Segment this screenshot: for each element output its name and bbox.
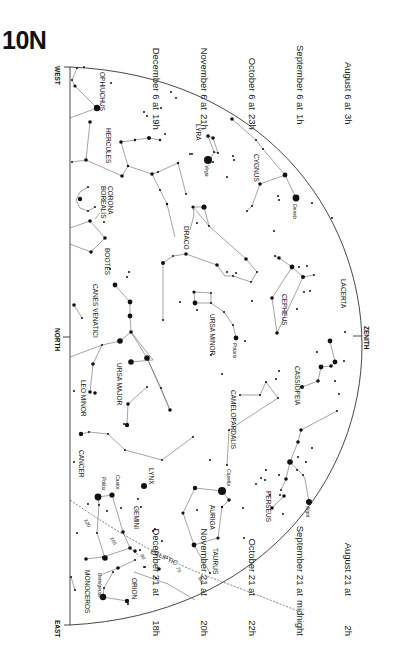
zenith-label: ZENITH [363, 326, 370, 350]
canes-venatici-lines [74, 305, 82, 318]
perseus-lines [290, 462, 309, 502]
label-cancer: CANCER [78, 450, 85, 478]
perseus-lines [281, 411, 337, 490]
ursa-major-lines [70, 341, 120, 357]
label-corona-borealis-1: CORONA [107, 186, 114, 215]
label-cepheus: CEPHEUS [281, 294, 288, 326]
label-cygnus: CYGNUS [253, 154, 260, 182]
label-ursa-minor: URSA MINOR [209, 314, 216, 355]
ursa-major-lines [127, 387, 147, 425]
ecliptic-degree: 75 [175, 566, 183, 574]
bootes-lines [70, 221, 105, 252]
label-camelopardalis: CAMELOPARDALIS [230, 390, 237, 450]
label-monoceros: MONOCEROS [84, 570, 91, 614]
ophiuchus-lines [70, 68, 97, 118]
label-leo-minor: LEO MINOR [80, 380, 87, 417]
bootes-lines [95, 213, 100, 219]
label-castor: Castor [115, 475, 121, 490]
label-hercules: HERCULES [105, 128, 112, 164]
label-gemini: GEMINI [133, 506, 140, 529]
label-algol: Algol [305, 505, 311, 518]
label-bootes: BOOTES [104, 248, 111, 276]
cygnus-lines [232, 119, 296, 198]
label-lynx: LYNX [148, 468, 155, 485]
label-orion: ORION [131, 578, 138, 600]
lynx-lines [81, 432, 193, 460]
label-ursa-major: URSA MAJOR [116, 363, 123, 406]
ecliptic-degree: 105 [109, 536, 118, 546]
ursa-major-lines [115, 285, 131, 341]
label-pollux: Pollux [101, 477, 107, 491]
star-labels: Vega Deneb Polaris Capella Algol Castor … [97, 165, 311, 598]
label-deneb: Deneb [292, 204, 298, 219]
auriga-lines [194, 545, 210, 573]
ecliptic-label: ECLIPTIC [150, 548, 180, 567]
label-vega: Vega [204, 165, 210, 177]
ecliptic-degree: 120 [83, 518, 92, 528]
label-corona-borealis-2: BOREALIS [100, 186, 107, 219]
label-polaris: Polaris [232, 343, 238, 359]
label-taurus: TAURUS [212, 548, 219, 575]
hercules-lines [86, 160, 175, 237]
ecliptic-degree: 90 [139, 553, 147, 561]
west-label: WEST [54, 66, 61, 85]
hercules-lines [121, 138, 160, 166]
label-canes-venatici: CANES VENATICI [92, 284, 99, 338]
label-auriga: AURIGA [209, 505, 216, 531]
label-perseus: PERSEUS [265, 491, 272, 523]
star-chart: WEST NORTH EAST ZENITH ECLIPTIC 120 105 … [0, 0, 402, 658]
gemini-lines [97, 497, 105, 558]
label-ophiuchus: OPHIUCHUS [99, 72, 106, 112]
auriga-lines [183, 488, 229, 545]
label-lyra: LYRA [195, 124, 202, 141]
label-betelgeuse: Betelgeuse [97, 573, 103, 598]
orion-lines [103, 572, 127, 601]
monoceros-lines [71, 577, 75, 590]
taurus-lines [134, 572, 195, 600]
ursa-major-lines [90, 345, 102, 392]
gemini-lines [86, 548, 130, 559]
hercules-lines [72, 122, 90, 162]
label-lacerta: LACERTA [340, 279, 347, 309]
ursa-major-lines [131, 332, 170, 410]
label-draco: DRACO [183, 226, 190, 249]
label-cassiopeia: CASSIOPEIA [294, 366, 301, 406]
label-capella: Capella [226, 469, 232, 486]
hercules-lines [152, 163, 186, 194]
east-label: EAST [54, 620, 61, 637]
north-label: NORTH [54, 328, 61, 351]
ecliptic-degree: 60 [197, 576, 205, 584]
perseus-lines [272, 496, 284, 508]
